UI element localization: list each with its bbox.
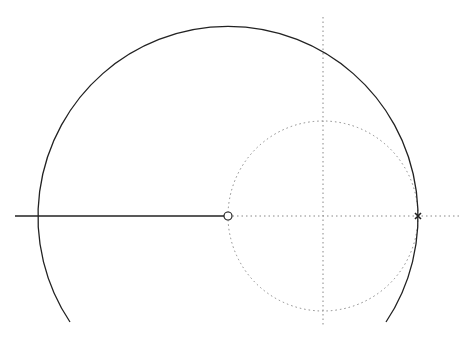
root-locus-diagram — [0, 0, 459, 338]
zero-marker — [224, 212, 232, 220]
background — [0, 0, 459, 338]
